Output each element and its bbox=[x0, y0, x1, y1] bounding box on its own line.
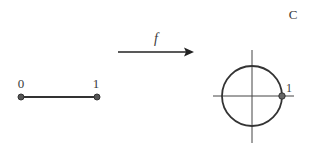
interval-start-label: 0 bbox=[18, 76, 25, 91]
unit-circle-figure: 1 bbox=[213, 50, 294, 143]
map-arrow: f bbox=[118, 31, 194, 57]
function-label: f bbox=[154, 31, 160, 46]
interval-end-point bbox=[94, 94, 100, 100]
interval-start-point bbox=[18, 94, 24, 100]
unit-interval: 0 1 bbox=[18, 76, 100, 100]
circle-point-one bbox=[279, 93, 285, 99]
diagram-canvas: 0 1 f 1 C bbox=[0, 0, 312, 149]
interval-end-label: 1 bbox=[93, 76, 100, 91]
complex-plane-label: C bbox=[289, 7, 298, 22]
circle-point-label: 1 bbox=[286, 81, 292, 95]
